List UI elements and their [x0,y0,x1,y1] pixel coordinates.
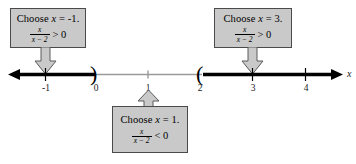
endpoint-paren-open-2: ( [196,63,203,85]
fraction-bottom-numerator: x [138,128,145,136]
tick-label-2: 2 [190,83,210,93]
tick-label-3: 3 [243,83,263,93]
arrowhead-left [8,69,20,80]
axis-label-x: x [347,68,351,79]
fraction-bottom-denominator: x − 2 [132,136,152,145]
arrowhead-right [331,69,343,80]
callout-bottom-headline: Choose x = 1. [120,114,179,125]
tick-label-neg1: -1 [36,83,56,93]
fraction-bottom: x x − 2 [132,128,152,145]
tick-label-0: 0 [86,83,106,93]
number-line-figure: Choose x = -1. x x − 2 > 0 Choose x = 3.… [0,0,356,164]
callout-box-bottom: Choose x = 1. x x − 2 < 0 [112,106,188,153]
relation-bottom: < 0 [155,130,169,141]
tick-label-4: 4 [296,83,316,93]
callout-bottom-inequality: x x − 2 < 0 [132,128,169,145]
endpoint-paren-close-0: ) [90,63,97,85]
